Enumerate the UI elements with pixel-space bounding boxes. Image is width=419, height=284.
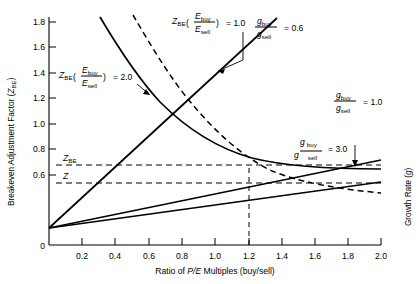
zbe2-buy: buy [88, 69, 99, 76]
x-axis-ticks [82, 238, 381, 245]
x-tick-label-1.0: 1.0 [209, 251, 221, 261]
annotation-g-3.0: gbuy gsell = 3.0 [294, 137, 358, 167]
zbe2-denominator: Esell [82, 78, 97, 89]
line-g-ratio-1.0 [49, 160, 381, 228]
g30-buy: buy [307, 141, 318, 148]
y-axis-title-d: ) [7, 77, 16, 80]
x-tick-labels: 0.2 0.4 0.6 0.8 1.0 1.2 1.4 1.6 1.8 2.0 [76, 251, 387, 261]
annotation-zbe-1.0: ZBE ( Ebuy Esell ) = 1.0 [171, 11, 246, 74]
g10-equals: = 1.0 [363, 97, 383, 107]
y-axis-title-a: Breakeven Adjustment Factor ( [7, 93, 16, 206]
x-tick-label-0.4: 0.4 [109, 251, 121, 261]
zbe1-sell: sell [201, 28, 210, 35]
x-tick-label-1.8: 1.8 [342, 251, 354, 261]
y-tick-label-0: 0 [40, 241, 45, 251]
y-tick-label-1.0: 1.0 [33, 119, 45, 129]
y-right-a: Growth Rate ( [404, 175, 413, 226]
g30-g-num: g [300, 137, 305, 147]
g06-numerator: gbuy [257, 16, 273, 27]
annotation-g-1.0: gbuy gsell = 1.0 [334, 90, 383, 114]
g06-equals: = 0.6 [284, 23, 304, 33]
zbe2-paren-close: ) [103, 72, 106, 82]
g10-numerator: gbuy [336, 90, 352, 101]
x-tick-label-1.6: 1.6 [309, 251, 321, 261]
g30-denominator: gsell [294, 150, 317, 161]
y-tick-label-1.8: 1.8 [33, 17, 45, 27]
z-reference-label: Z [62, 171, 69, 181]
curve-zbe-e-ratio-1.0 [133, 15, 381, 193]
y-tick-labels: 1.8 1.6 1.4 1.2 1.0 0.8 0.6 0 [33, 17, 45, 251]
annotation-g-0.6: gbuy gsell = 0.6 [255, 16, 304, 40]
zbe2-equals: = 2.0 [113, 72, 133, 82]
x-axis-title: Ratio of P/E Multiples (buy/sell) [155, 266, 275, 276]
x-tick-label-0.2: 0.2 [76, 251, 88, 261]
zbe2-sell: sell [88, 82, 97, 89]
zbe1-paren-open: ( [186, 18, 189, 28]
chart-svg: 1.8 1.6 1.4 1.2 1.0 0.8 0.6 0 0.2 0.4 0.… [0, 0, 419, 284]
zbe1-leader-line [218, 32, 243, 71]
annotation-zbe-2.0-text: ZBE [58, 70, 73, 81]
annotation-zbe-2.0: ZBE ( Ebuy Esell ) = 2.0 [58, 65, 150, 95]
x-axis-title-pe: P/E [187, 266, 201, 276]
annotation-zbe-1.0-text: ZBE [171, 16, 186, 27]
y-axis-right-title: Growth Rate (g) [404, 167, 413, 226]
zbe1-denominator: Esell [195, 24, 210, 35]
g10-sell: sell [341, 107, 350, 114]
y-tick-label-0.8: 0.8 [33, 144, 45, 154]
zbe1-BE: BE [177, 20, 185, 27]
g30-g-den: g [294, 150, 299, 160]
y-tick-label-1.2: 1.2 [33, 93, 45, 103]
g06-sell: sell [262, 33, 271, 40]
x-tick-label-1.4: 1.4 [276, 251, 288, 261]
chart-figure: 1.8 1.6 1.4 1.2 1.0 0.8 0.6 0 0.2 0.4 0.… [0, 0, 419, 284]
y-axis-ticks [49, 22, 56, 175]
zbe1-paren-close: ) [216, 18, 219, 28]
x-axis-title-a: Ratio of [155, 266, 187, 276]
y-tick-label-1.6: 1.6 [33, 42, 45, 52]
zbe2-BE: BE [64, 74, 72, 81]
y-tick-label-0.6: 0.6 [33, 170, 45, 180]
g30-sell: sell [308, 154, 317, 161]
x-tick-label-2.0: 2.0 [375, 251, 387, 261]
x-axis-title-c: Multiples (buy/sell) [201, 266, 275, 276]
axis-lines [49, 17, 381, 245]
x-tick-label-1.2: 1.2 [243, 251, 255, 261]
g10-denominator: gsell [336, 103, 350, 114]
zbe1-equals: = 1.0 [226, 18, 246, 28]
y-axis-title: Breakeven Adjustment Factor (ZBE) [7, 77, 17, 206]
zbe1-buy: buy [201, 15, 212, 22]
zbe-reference-label: ZBE [62, 153, 77, 164]
x-tick-label-0.8: 0.8 [176, 251, 188, 261]
g10-buy: buy [341, 94, 352, 101]
line-g-ratio-3.0 [49, 182, 381, 228]
y-axis-title-sub: BE [10, 80, 17, 88]
zbe2-numerator: Ebuy [82, 65, 99, 76]
g06-buy: buy [262, 20, 273, 27]
g30-numerator: gbuy [300, 137, 318, 148]
zbe2-paren-open: ( [73, 72, 76, 82]
zbe-ref-sub: BE [68, 157, 76, 164]
y-tick-label-1.4: 1.4 [33, 68, 45, 78]
x-tick-label-0.6: 0.6 [143, 251, 155, 261]
y-right-c: ) [404, 167, 413, 170]
g30-equals: = 3.0 [328, 144, 348, 154]
zbe1-numerator: Ebuy [195, 11, 212, 22]
